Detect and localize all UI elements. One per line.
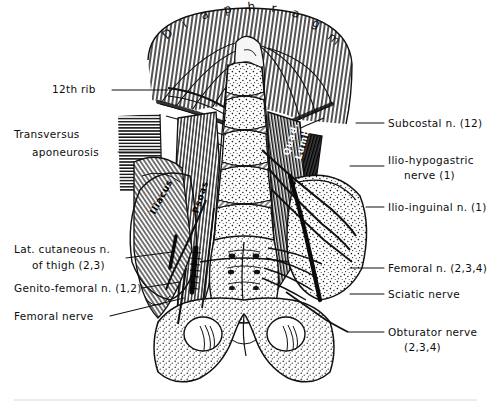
label-transversus-line1: Transversus [13,128,80,140]
label-iliohypogastric-line2: nerve (1) [404,169,455,181]
label-femoral-nerve: Femoral nerve [14,310,94,322]
label-lat-cutaneous-line1: Lat. cutaneous n. [14,243,110,255]
label-ilioinguinal: Ilio-inguinal n. (1) [388,201,487,213]
label-obturator-line2: (2,3,4) [404,341,441,353]
label-obturator-line1: Obturator nerve [388,326,477,338]
engraving-canvas: D i a p h r a g m [0,0,491,410]
label-genitofemoral: Genito-femoral n. (1,2) [14,282,142,294]
label-femoral-n: Femoral n. (2,3,4) [388,262,487,274]
anatomical-figure: D i a p h r a g m [0,0,491,410]
label-subcostal: Subcostal n. (12) [388,117,482,129]
label-lat-cutaneous-line2: of thigh (2,3) [32,259,105,271]
label-transversus-line2: aponeurosis [32,146,99,158]
label-sciatic: Sciatic nerve [388,288,460,300]
title-letter: h [247,0,256,14]
label-iliohypogastric-line1: Ilio-hypogastric [388,154,474,166]
label-12th-rib: 12th rib [52,83,96,95]
